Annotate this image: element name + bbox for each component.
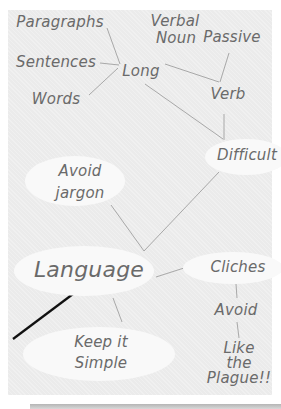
node-keep-simple-line1: Keep it <box>66 334 136 351</box>
edge-avoid-plague <box>237 322 239 338</box>
node-language: Language <box>24 258 154 282</box>
node-long: Long <box>119 63 163 80</box>
bottom-divider <box>30 404 281 409</box>
edge-difficult-language <box>144 172 219 251</box>
node-avoid-jargon-line1: Avoid <box>50 163 110 180</box>
node-verbal-line1: Verbal <box>140 13 210 30</box>
node-avoid: Avoid <box>206 302 266 319</box>
node-passive: Passive <box>200 29 264 46</box>
node-plague-line3: Plague!! <box>204 370 274 387</box>
node-sentences: Sentences <box>13 54 99 71</box>
node-noun-line2: Noun <box>148 30 204 47</box>
node-avoid-jargon-line2: jargon <box>50 185 110 202</box>
edge-noun-verb <box>165 64 219 82</box>
edge-language-cliches <box>156 268 184 277</box>
edge-words-long <box>89 68 118 95</box>
node-cliches: Cliches <box>203 259 273 276</box>
edge-jargon-language <box>111 205 144 251</box>
edge-paragraphs-long <box>107 28 120 64</box>
edge-cliches-avoid <box>236 284 237 298</box>
edge-sentences-long <box>100 63 119 65</box>
node-paragraphs: Paragraphs <box>12 14 108 31</box>
edge-passive-verb <box>220 53 229 82</box>
node-keep-simple-line2: Simple <box>66 355 136 372</box>
edge-language-simple <box>113 298 122 322</box>
node-verb: Verb <box>206 86 250 103</box>
node-words: Words <box>28 91 84 108</box>
node-difficult: Difficult <box>212 147 281 164</box>
